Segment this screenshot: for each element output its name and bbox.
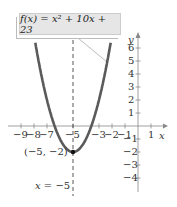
y-tick-label: 3: [128, 82, 134, 92]
y-tick-label: 6: [128, 43, 134, 53]
vertex-point: [71, 150, 75, 154]
y-tick-label: 4: [128, 69, 134, 79]
x-tick-label: −7: [39, 130, 54, 140]
y-tick-label: 5: [128, 56, 134, 66]
equation-pointer: [78, 38, 107, 62]
x-tick-label: 1: [148, 130, 154, 140]
x-axis-label: x: [159, 131, 165, 141]
x-axis-arrow-icon: [163, 124, 168, 129]
y-tick-label: 2: [128, 95, 134, 105]
x-tick-label: −5: [65, 130, 80, 140]
symmetry-label: x = −5: [35, 181, 70, 191]
y-tick-label: 1: [128, 108, 134, 118]
y-tick-label: −4: [123, 173, 138, 183]
y-tick-label: −1: [123, 134, 138, 144]
y-tick-label: −3: [123, 160, 138, 170]
vertex-label: (−5, −2): [24, 147, 68, 157]
equation-label-box: f(x) = x² + 10x + 23: [19, 13, 121, 35]
y-tick-label: −2: [123, 147, 138, 157]
y-axis-arrow-icon: [136, 32, 141, 38]
